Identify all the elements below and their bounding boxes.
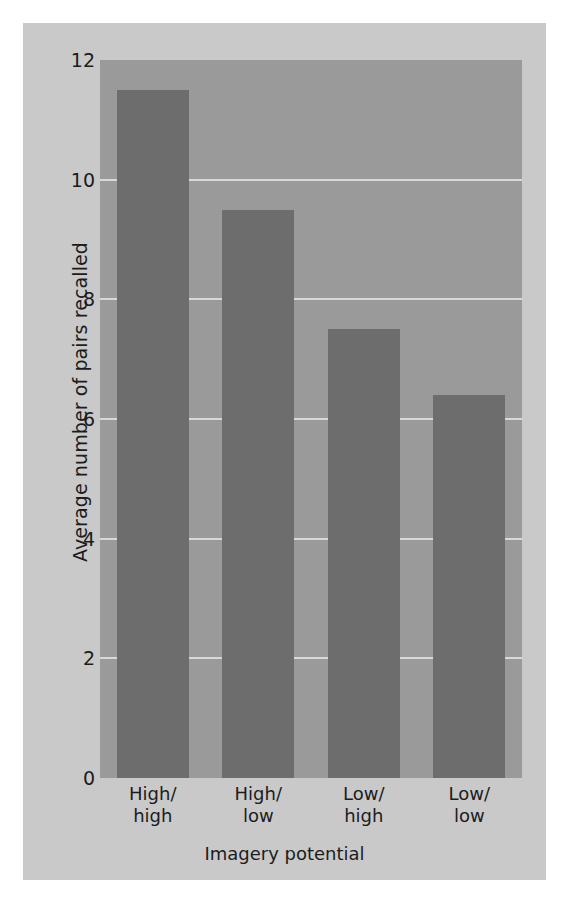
y-tick-label: 10 (43, 170, 95, 189)
x-axis-tick-labels: High/ highHigh/ lowLow/ highLow/ low (100, 783, 522, 839)
bar (222, 210, 294, 778)
y-tick-label: 4 (43, 529, 95, 548)
x-axis-label: Imagery potential (23, 843, 546, 864)
x-tick-label: Low/ high (311, 783, 417, 827)
y-tick-label: 2 (43, 649, 95, 668)
y-tick-label: 6 (43, 410, 95, 429)
y-tick-label: 0 (43, 769, 95, 788)
bar (433, 395, 505, 778)
bar (117, 90, 189, 778)
chart-figure: Average number of pairs recalled 0246810… (23, 23, 546, 880)
x-tick-label: Low/ low (417, 783, 523, 827)
x-tick-label: High/ low (206, 783, 312, 827)
bar (328, 329, 400, 778)
y-axis-tick-labels: 024681012 (43, 60, 95, 778)
plot-area (100, 60, 522, 778)
y-tick-label: 8 (43, 290, 95, 309)
y-tick-label: 12 (43, 51, 95, 70)
bar-series (100, 60, 522, 778)
x-tick-label: High/ high (100, 783, 206, 827)
